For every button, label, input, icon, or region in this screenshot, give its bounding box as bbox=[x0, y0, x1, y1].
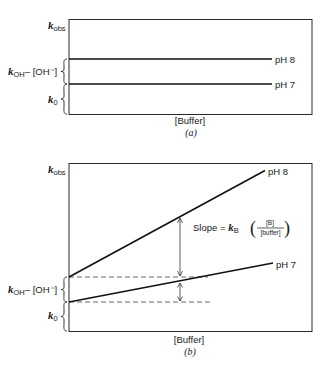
panel-a-brace-upper-label: kOH– [OH⁻] bbox=[8, 65, 57, 79]
panel-b-label-ph8: pH 8 bbox=[268, 166, 288, 177]
figure: pH 8 pH 7 kobs kOH– [OH⁻] k0 [Buffer] (a… bbox=[0, 0, 321, 365]
panel-b-double-arrow-lower bbox=[178, 283, 183, 301]
panel-a-y-axis-label: kobs bbox=[48, 19, 66, 33]
panel-b-slope-paren-right: ) bbox=[284, 218, 290, 239]
panel-b-line-ph7 bbox=[69, 263, 273, 302]
panel-b-brace-upper bbox=[61, 277, 67, 302]
panel-b-brace-lower bbox=[61, 302, 67, 331]
panel-b-double-arrow-upper bbox=[178, 218, 183, 276]
panel-b-caption: (b) bbox=[184, 346, 196, 358]
panel-b-line-ph8 bbox=[69, 171, 265, 278]
panel-a-plot-frame bbox=[69, 20, 312, 115]
panel-b-slope-denominator: [buffer] bbox=[260, 229, 280, 237]
panel-a-label-ph7: pH 7 bbox=[275, 79, 295, 90]
panel-a-label-ph8: pH 8 bbox=[275, 54, 295, 65]
panel-b-plot-frame bbox=[69, 164, 312, 332]
panel-b-brace-upper-label: kOH– [OH⁻] bbox=[8, 283, 57, 297]
panel-b-label-ph7: pH 7 bbox=[276, 259, 296, 270]
panel-b-x-axis-label: [Buffer] bbox=[174, 334, 204, 345]
panel-b-y-axis-label: kobs bbox=[48, 163, 66, 177]
panel-a-caption: (a) bbox=[185, 127, 197, 139]
panel-b-slope-numerator: [B] bbox=[266, 219, 274, 227]
panel-a-brace-lower bbox=[61, 84, 67, 114]
panel-b: pH 8 pH 7 Slope = kB ( [B] [buffer] ) bbox=[8, 163, 312, 358]
panel-b-slope-paren-left: ( bbox=[250, 218, 256, 239]
panel-a-brace-lower-label: k0 bbox=[48, 93, 58, 107]
panel-b-slope-text: Slope = kB bbox=[193, 221, 239, 235]
panel-a-x-axis-label: [Buffer] bbox=[175, 115, 205, 126]
panel-b-slope-annotation: Slope = kB ( [B] [buffer] ) bbox=[193, 218, 290, 239]
panel-b-brace-lower-label: k0 bbox=[48, 309, 58, 323]
panel-a-brace-upper bbox=[61, 59, 67, 84]
panel-a: pH 8 pH 7 kobs kOH– [OH⁻] k0 [Buffer] (a… bbox=[8, 19, 312, 139]
